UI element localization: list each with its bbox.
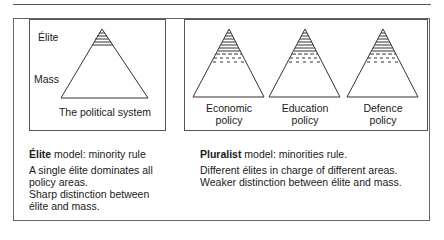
elite-label: Élite: [38, 31, 58, 43]
political-system-caption: The political system: [50, 106, 160, 118]
defence-policy-caption: Defence policy: [348, 102, 418, 126]
elite-pyramid-icon: [61, 29, 148, 98]
economic-policy-caption: Economic policy: [194, 102, 264, 126]
defence-pyramid-icon: [347, 29, 418, 97]
pluralist-model-title: Pluralist model: minorities rule.: [200, 148, 435, 160]
education-policy-caption: Education policy: [270, 102, 340, 126]
elite-model-description: Élite model: minority rule A single élit…: [29, 148, 189, 212]
mass-label: Mass: [34, 73, 59, 85]
economic-pyramid-icon: [193, 29, 264, 97]
pluralist-model-description: Pluralist model: minorities rule. Differ…: [200, 148, 435, 188]
education-pyramid-icon: [269, 29, 340, 97]
elite-model-title: Élite model: minority rule: [29, 148, 189, 160]
